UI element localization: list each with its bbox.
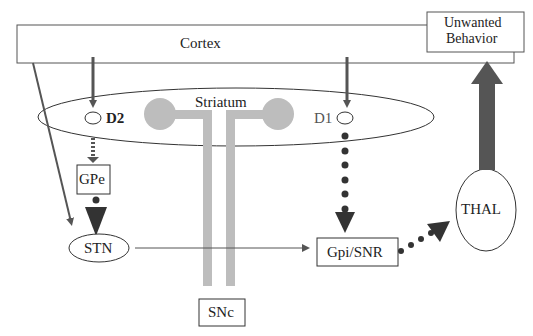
- gpe-label: GPe: [79, 172, 105, 187]
- gpi-snr-label: Gpi/SNR: [327, 245, 383, 260]
- cortex-to-stn-arrow: [33, 63, 71, 222]
- cortex-label: Cortex: [180, 36, 221, 51]
- thal-label: THAL: [461, 202, 501, 217]
- unwanted-label-line2: Behavior: [446, 32, 497, 46]
- gpi-to-thal-arrow: [398, 221, 450, 254]
- snc-label: SNc: [208, 305, 234, 320]
- d2-receptor: [85, 112, 101, 124]
- diagram-canvas: [0, 0, 533, 336]
- d1-to-gpi-arrow: [335, 133, 355, 234]
- dopamine-pathway: [144, 98, 294, 286]
- d2-label: D2: [106, 111, 124, 126]
- d1-receptor: [337, 112, 353, 124]
- d1-label: D1: [314, 111, 332, 126]
- thal-to-behavior-arrow: [479, 80, 495, 170]
- stn-label: STN: [84, 241, 112, 256]
- unwanted-label-line1: Unwanted: [444, 16, 502, 30]
- gpe-to-stn-arrow: [85, 207, 107, 236]
- striatum-label: Striatum: [195, 95, 247, 110]
